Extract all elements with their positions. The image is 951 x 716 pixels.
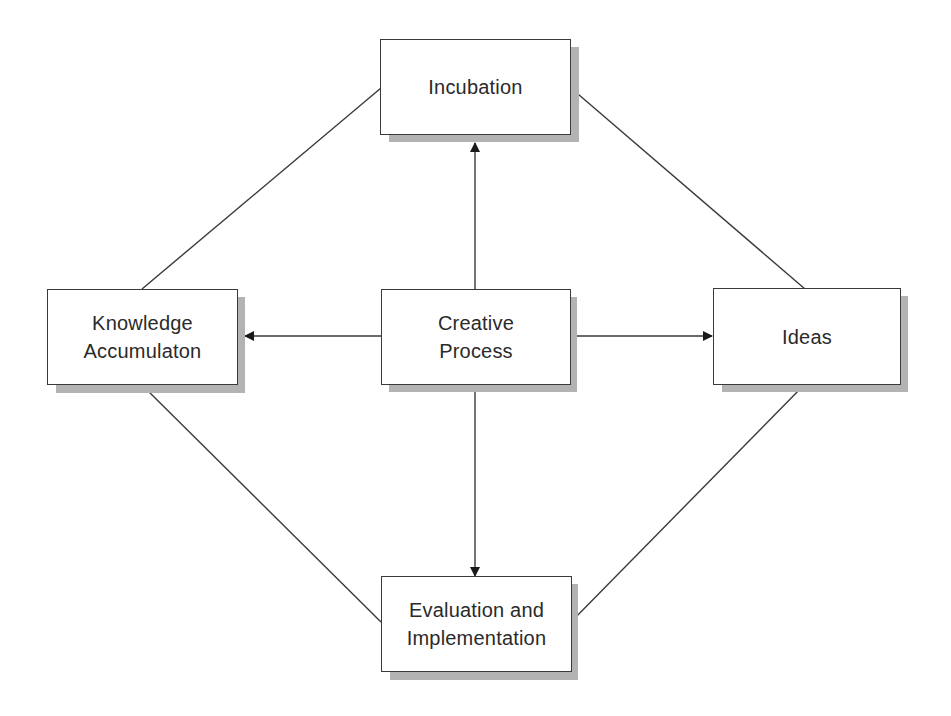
node-creative-process: Creative Process — [381, 289, 571, 385]
node-evaluation-implementation: Evaluation and Implementation — [381, 576, 572, 672]
node-knowledge-accumulation: Knowledge Accumulaton — [47, 289, 238, 385]
node-knowledge-label: Knowledge Accumulaton — [84, 309, 202, 365]
creative-process-diagram: Incubation Knowledge Accumulaton Creativ… — [0, 0, 951, 716]
link-knowledge-evaluation — [142, 385, 381, 622]
node-ideas: Ideas — [713, 288, 901, 385]
node-creative-label: Creative Process — [438, 309, 514, 365]
link-incubation-ideas — [571, 88, 805, 289]
link-ideas-evaluation — [571, 384, 805, 622]
node-ideas-label: Ideas — [782, 323, 832, 351]
node-incubation: Incubation — [380, 39, 571, 135]
link-knowledge-incubation — [142, 88, 381, 289]
node-incubation-label: Incubation — [428, 73, 522, 101]
node-evaluation-label: Evaluation and Implementation — [407, 596, 547, 652]
